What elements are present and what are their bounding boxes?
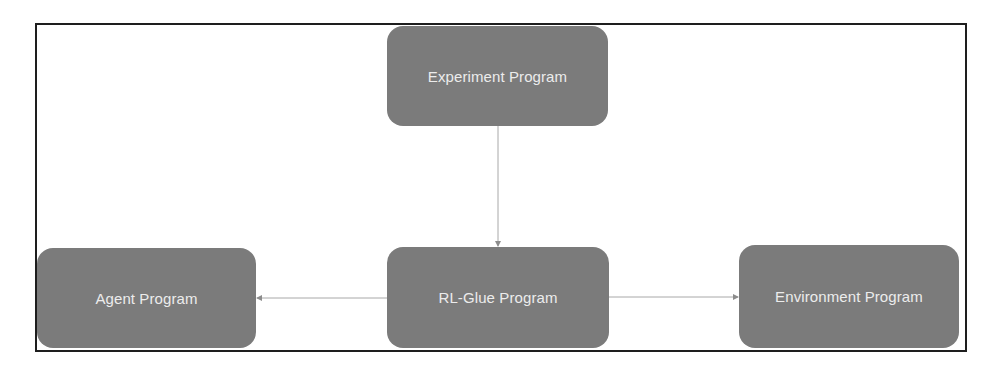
rl-glue-program-label: RL-Glue Program [438, 289, 557, 306]
environment-program-node: Environment Program [739, 245, 959, 348]
rl-glue-program-node: RL-Glue Program [387, 247, 609, 348]
agent-program-node: Agent Program [37, 248, 256, 348]
experiment-program-node: Experiment Program [387, 26, 608, 126]
environment-program-label: Environment Program [775, 288, 923, 305]
agent-program-label: Agent Program [95, 290, 197, 307]
experiment-program-label: Experiment Program [428, 68, 567, 85]
